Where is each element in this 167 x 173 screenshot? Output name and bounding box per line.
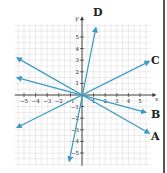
- coordinate-plane-diagram: −5−4−3−2−112345−5−4−3−2−112345 D C B A x…: [0, 0, 167, 173]
- label-a: A: [150, 130, 160, 143]
- label-d: D: [93, 6, 103, 19]
- svg-text:3: 3: [76, 57, 80, 63]
- label-b: B: [151, 108, 160, 121]
- svg-text:4: 4: [76, 46, 80, 52]
- svg-text:−4: −4: [32, 98, 41, 104]
- svg-text:−1: −1: [71, 104, 79, 110]
- right-border: [163, 0, 165, 173]
- label-c: C: [151, 54, 160, 67]
- svg-text:5: 5: [138, 98, 142, 104]
- y-axis-label: y: [74, 14, 79, 22]
- svg-text:5: 5: [76, 34, 80, 40]
- axes: [15, 16, 157, 166]
- svg-text:−2: −2: [55, 98, 63, 104]
- svg-text:−5: −5: [71, 150, 80, 156]
- svg-text:4: 4: [127, 98, 131, 104]
- svg-text:−3: −3: [43, 98, 52, 104]
- x-axis-label: x: [155, 95, 159, 102]
- svg-text:−5: −5: [20, 98, 29, 104]
- svg-text:2: 2: [76, 69, 80, 75]
- svg-text:1: 1: [76, 80, 80, 86]
- svg-text:3: 3: [115, 98, 119, 104]
